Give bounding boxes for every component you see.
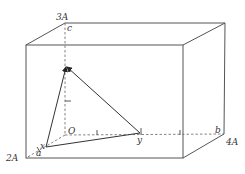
vector-y-to-z [67,67,140,133]
y-axis [65,134,224,135]
top-left-connector [26,23,65,45]
label-c: c [67,23,72,33]
diagram-canvas: 3A c z O x a 2A y b 4A [0,0,245,174]
label-b: b [215,125,221,135]
top-right-connector [183,23,225,45]
label-2A: 2A [5,153,19,163]
box-frame [26,23,225,158]
bottom-right-connector [183,134,224,158]
label-a: a [36,148,41,158]
label-3A: 3A [56,12,69,22]
axes [26,23,224,158]
label-4A: 4A [225,137,239,147]
x-axis [26,135,65,158]
back-right-edge [224,23,225,134]
tick-marks [37,101,180,152]
label-y: y [136,135,143,145]
label-O: O [68,126,76,136]
vector-x-to-z [46,67,66,147]
label-z: z [66,64,72,74]
